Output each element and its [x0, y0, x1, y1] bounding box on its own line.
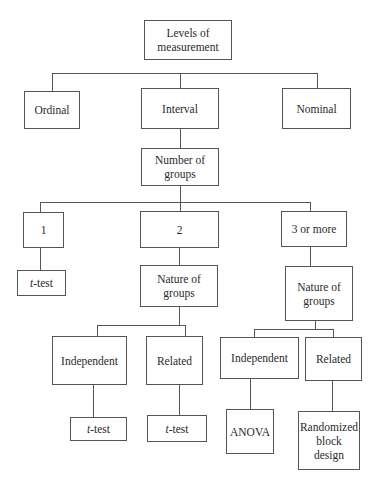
node-label: Number of — [155, 153, 205, 167]
node-independent-3: Independent — [220, 337, 299, 379]
connector — [93, 384, 94, 417]
node-anova: ANOVA — [226, 409, 274, 454]
node-label: -test — [33, 277, 53, 289]
node-label: Nature of — [157, 272, 201, 286]
connector — [97, 325, 98, 336]
node-label: 2 — [177, 223, 183, 237]
connector — [40, 202, 311, 203]
node-related-2: Related — [146, 336, 203, 385]
node-label: Ordinal — [34, 103, 69, 117]
connector — [179, 384, 180, 415]
connector — [332, 380, 333, 411]
node-label: measurement — [157, 40, 218, 54]
node-label: Levels of — [157, 26, 218, 40]
connector — [179, 306, 180, 325]
node-label: Independent — [61, 354, 118, 368]
connector — [333, 329, 334, 337]
node-label: Nominal — [296, 102, 336, 116]
node-label: Independent — [231, 351, 288, 365]
node-label: design — [300, 448, 358, 462]
node-label: Randomized — [300, 420, 358, 434]
node-group-2: 2 — [140, 211, 219, 248]
node-nature-of-groups-3: Nature of groups — [285, 266, 353, 321]
connector — [180, 128, 181, 148]
connector — [40, 247, 41, 270]
connector — [185, 325, 186, 336]
node-label: groups — [157, 286, 201, 300]
node-nominal: Nominal — [282, 88, 351, 129]
node-label: ANOVA — [230, 425, 270, 439]
node-label: Nature of — [297, 280, 341, 294]
connector — [40, 202, 41, 212]
node-ordinal: Ordinal — [24, 91, 80, 129]
connector — [315, 320, 316, 329]
connector — [180, 185, 181, 212]
node-interval: Interval — [141, 88, 219, 129]
connector — [254, 329, 255, 337]
connector — [254, 329, 334, 330]
node-group-1: 1 — [23, 212, 64, 248]
connector — [97, 325, 186, 326]
node-label: groups — [155, 167, 205, 181]
node-t-test-independent: t-test — [70, 417, 127, 441]
node-group-3-or-more: 3 or more — [281, 211, 347, 247]
node-label: 1 — [41, 223, 47, 237]
node-label: groups — [297, 294, 341, 308]
node-levels-of-measurement: Levels of measurement — [144, 20, 232, 60]
connector — [180, 73, 181, 88]
node-related-3: Related — [305, 337, 362, 381]
node-number-of-groups: Number of groups — [141, 148, 219, 186]
node-label: Related — [157, 354, 192, 368]
connector — [310, 246, 311, 266]
connector — [52, 73, 53, 91]
node-t-test-related: t-test — [147, 415, 207, 442]
node-randomized-block-design: Randomized block design — [298, 411, 360, 470]
node-label: Related — [316, 352, 351, 366]
node-label: Interval — [162, 102, 198, 116]
node-label: -test — [169, 423, 189, 435]
node-label: 3 or more — [292, 222, 337, 236]
connector — [317, 73, 318, 88]
node-nature-of-groups-2: Nature of groups — [140, 265, 218, 307]
connector — [52, 73, 318, 74]
node-independent-2: Independent — [52, 336, 127, 385]
connector — [310, 202, 311, 211]
connector — [250, 378, 251, 409]
node-label: block — [300, 434, 358, 448]
node-t-test-one-group: t-test — [17, 270, 66, 296]
node-label: -test — [90, 423, 110, 435]
connector — [179, 247, 180, 265]
